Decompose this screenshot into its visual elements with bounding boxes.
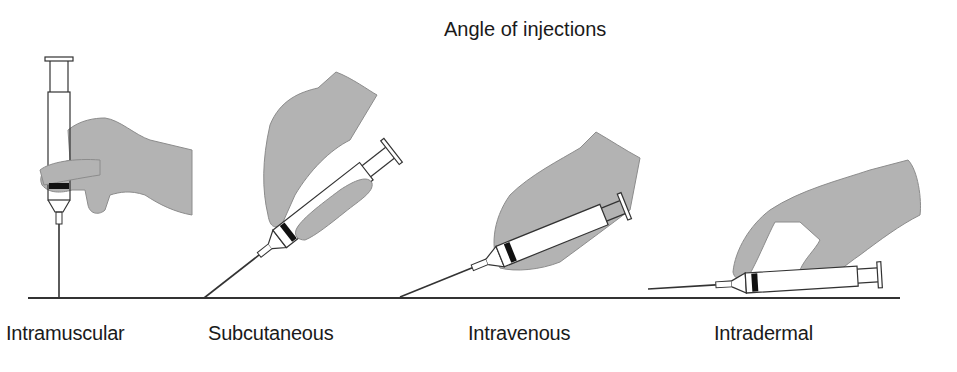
needle [400,268,472,297]
intramuscular-illustration [40,57,192,298]
syringe-stopper [49,183,69,189]
needle [648,285,716,289]
injection-angles-illustration [0,0,957,372]
label-subcutaneous: Subcutaneous [208,322,333,345]
label-intravenous: Intravenous [468,322,570,345]
label-intradermal: Intradermal [714,322,813,345]
label-intramuscular: Intramuscular [6,322,125,345]
intradermal-illustration [647,160,920,302]
intravenous-illustration [395,132,640,310]
syringe-barrel [745,266,858,293]
needle [204,255,259,298]
syringe-stopper [751,273,758,291]
subcutaneous-illustration [195,72,403,310]
